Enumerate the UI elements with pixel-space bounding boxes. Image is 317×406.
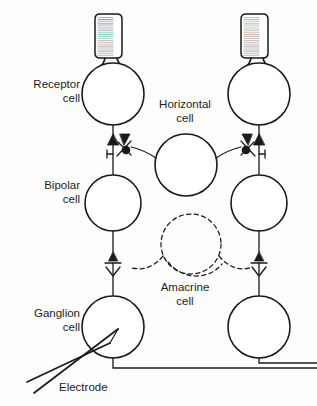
synapse-triangle-left-outer bbox=[108, 134, 119, 145]
outer-segment-right bbox=[241, 14, 268, 58]
receptor-cell-left bbox=[82, 58, 144, 125]
label-amacrine-cell: Amacrine cell bbox=[143, 281, 227, 308]
label-ganglion-cell: Ganglion cell bbox=[4, 307, 80, 334]
synapse-triangle-bipolar-right bbox=[255, 252, 264, 261]
horizontal-cell bbox=[131, 134, 241, 196]
horizontal-process-left bbox=[131, 147, 156, 158]
label-horizontal-cell: Horizontal cell bbox=[143, 98, 227, 125]
synapse-cluster-left bbox=[107, 134, 131, 175]
synapse-triangle-bipolar-left bbox=[109, 252, 118, 261]
receptor-cell-right bbox=[228, 58, 290, 125]
outer-segment-left bbox=[95, 14, 122, 58]
synapse-triangle-right-outer bbox=[254, 134, 265, 145]
amacrine-cell bbox=[132, 214, 250, 276]
label-bipolar-cell: Bipolar cell bbox=[4, 179, 80, 206]
synapse-bipolar-ganglion-right bbox=[251, 252, 267, 296]
amacrine-process-left bbox=[132, 256, 163, 269]
label-receptor-cell: Receptor cell bbox=[4, 78, 80, 105]
retina-circuit-figure: Receptor cell Bipolar cell Ganglion cell… bbox=[0, 0, 317, 406]
bipolar-cell-right bbox=[231, 175, 287, 231]
synapse-cluster-right bbox=[241, 134, 265, 175]
axon-ganglion-right bbox=[259, 358, 317, 363]
synapse-bipolar-ganglion-left bbox=[105, 252, 121, 296]
amacrine-process-lower bbox=[168, 262, 222, 276]
amacrine-process-right bbox=[219, 256, 250, 269]
ganglion-cell-right bbox=[228, 296, 290, 358]
bipolar-cell-left bbox=[85, 175, 141, 231]
label-electrode: Electrode bbox=[59, 381, 149, 395]
horizontal-process-right bbox=[216, 147, 241, 158]
